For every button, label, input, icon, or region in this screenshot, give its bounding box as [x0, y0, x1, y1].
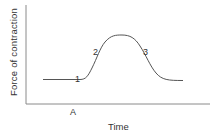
time-marker-a: A: [70, 108, 76, 117]
contraction-force-chart: Force of contraction Time A 1 2 3: [0, 0, 218, 140]
y-axis-label: Force of contraction: [9, 8, 19, 96]
x-axis-label: Time: [108, 122, 129, 132]
force-curve: [43, 35, 183, 81]
chart-plot-area: [0, 0, 218, 140]
phase-label-2: 2: [93, 48, 98, 57]
phase-label-1: 1: [75, 75, 80, 84]
phase-label-3: 3: [143, 48, 148, 57]
